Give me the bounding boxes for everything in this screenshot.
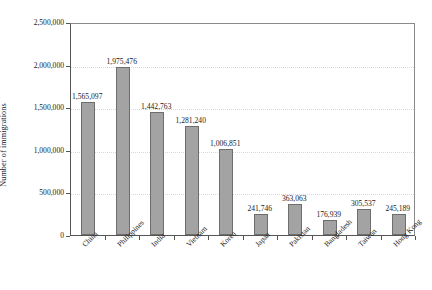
y-axis-tick-label: 2,500,000 — [8, 19, 64, 27]
y-axis-tick-label: 2,000,000 — [8, 62, 64, 70]
y-axis-tick — [66, 236, 70, 237]
y-axis-title-label: Number of immigrations — [0, 103, 8, 187]
y-axis-tick-label: 500,000 — [8, 189, 64, 197]
bar-value-label: 241,746 — [232, 205, 288, 213]
y-axis-tick-label: 0 — [8, 232, 64, 240]
bar-value-label: 245,189 — [370, 205, 426, 213]
y-axis-tick-label: 1,500,000 — [8, 104, 64, 112]
x-axis-tick — [312, 236, 313, 240]
bar — [81, 102, 95, 235]
bar-value-label: 363,063 — [266, 195, 322, 203]
bar-chart: Number of immigrations 0500,0001,000,000… — [0, 0, 432, 290]
y-axis-tick-label: 1,000,000 — [8, 147, 64, 155]
x-axis-tick — [174, 236, 175, 240]
bar — [116, 67, 130, 235]
x-axis-tick — [243, 236, 244, 240]
x-axis-tick — [208, 236, 209, 240]
x-axis-tick — [346, 236, 347, 240]
bar-value-label: 1,975,476 — [94, 58, 150, 66]
x-axis-tick — [415, 236, 416, 240]
x-axis-tick — [381, 236, 382, 240]
bar — [219, 149, 233, 235]
y-axis-title: Number of immigrations — [10, 0, 28, 290]
x-axis-tick — [139, 236, 140, 240]
x-axis-tick — [105, 236, 106, 240]
x-axis-tick — [277, 236, 278, 240]
bar-value-label: 1,006,851 — [197, 140, 253, 148]
bar — [150, 112, 164, 235]
bar-value-label: 1,281,240 — [163, 117, 219, 125]
bar-value-label: 1,442,763 — [128, 103, 184, 111]
bar-value-label: 1,565,097 — [59, 93, 115, 101]
